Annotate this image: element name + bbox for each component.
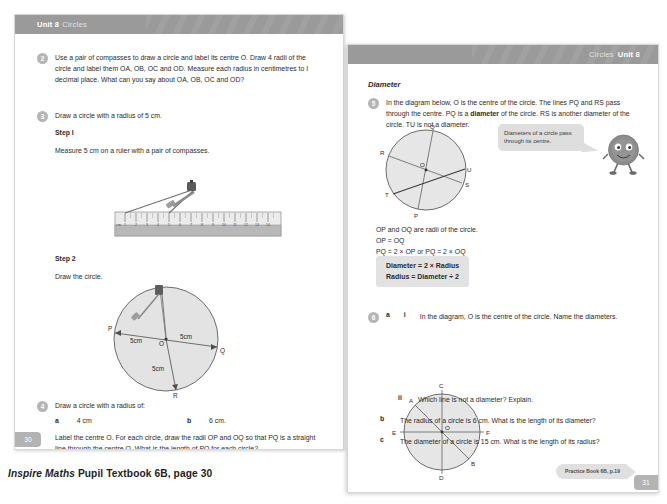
question-4-text: Draw a circle with a radius of: — [55, 400, 145, 411]
dim-right: 5cm — [180, 333, 192, 340]
q6-c-letter: c — [380, 436, 386, 443]
caption-rest-part: Pupil Textbook 6B, page 30 — [75, 468, 212, 479]
label-t: T — [385, 191, 389, 198]
svg-text:7: 7 — [190, 223, 192, 227]
q5-note-line-2: OP = OQ — [376, 235, 404, 246]
ruler-and-compasses-illustration: cm 123 456 789 101112 1314 — [111, 180, 287, 242]
label-u: U — [467, 166, 471, 173]
formula-line-1: Diameter = 2 × Radius — [386, 261, 459, 272]
left-page-number: 30 — [15, 432, 41, 447]
section-title-diameter: Diameter — [368, 80, 401, 89]
q6-a-letter: a — [386, 311, 390, 318]
step-2-label: Step 2 — [55, 253, 76, 264]
q4-option-a-letter: a — [55, 417, 59, 424]
step-1-label: Step I — [55, 127, 74, 138]
question-6-number: 6 — [368, 312, 379, 323]
svg-text:11: 11 — [233, 223, 237, 227]
question-2: 2 Use a pair of compasses to draw a circ… — [37, 52, 323, 86]
formula-box: Diameter = 2 × Radius Radius = Diameter … — [376, 256, 469, 287]
question-2-number: 2 — [37, 53, 48, 64]
svg-text:3: 3 — [146, 223, 148, 227]
mascot-character-icon — [602, 130, 646, 176]
q6-ii-numeral: ii — [398, 394, 404, 401]
svg-text:2: 2 — [135, 223, 137, 227]
question-4-number: 4 — [37, 401, 48, 412]
speech-bubble-text: Diameters of a circle pass through its c… — [498, 124, 584, 151]
label-f: F — [486, 429, 490, 436]
q4-followup-text: Label the centre O. For each circle, dra… — [55, 432, 323, 450]
svg-text:8: 8 — [201, 223, 203, 227]
step-2-circle-figure: P O Q R 5cm 5cm 5cm — [108, 281, 228, 399]
figure-caption: Inspire Maths Pupil Textbook 6B, page 30 — [8, 468, 212, 479]
question-6-ii: ii Which line is not a diameter? Explain… — [398, 394, 644, 405]
dim-down: 5cm — [152, 365, 164, 372]
label-s: S — [465, 181, 469, 188]
q5-note-line-1: OP and OQ are radii of the circle. — [376, 224, 478, 235]
svg-text:9: 9 — [212, 223, 214, 227]
practice-book-reference-label: Practice Book 6B, p.19 — [556, 464, 627, 479]
svg-text:cm: cm — [116, 223, 121, 227]
q6-b-letter: b — [380, 415, 386, 422]
svg-text:6: 6 — [179, 223, 181, 227]
svg-text:4: 4 — [157, 223, 159, 227]
question-6-b: b The radius of a circle is 6 cm. What i… — [380, 415, 644, 426]
label-r: R — [173, 392, 178, 399]
question-3: 3 Draw a circle with a radius of 5 cm. — [37, 110, 323, 122]
label-o: O — [159, 340, 164, 347]
q6-i-numeral: i — [404, 311, 406, 318]
q6-c-text: The diameter of a circle is 15 cm. What … — [400, 436, 600, 447]
q4-option-b-letter: b — [187, 417, 191, 424]
right-page-body: Diameter 5 In the diagram below, O is th… — [348, 64, 658, 492]
svg-text:12: 12 — [244, 223, 248, 227]
right-page-number: 31 — [634, 475, 658, 490]
svg-text:13: 13 — [255, 223, 259, 227]
left-page-header-band: Unit 8 Circles — [15, 15, 343, 34]
question-5-number: 5 — [368, 98, 379, 109]
svg-text:5: 5 — [168, 223, 170, 227]
question-5-circle-figure: Q R O U S T P — [376, 122, 480, 220]
label-r: R — [380, 149, 385, 156]
speech-bubble-group: Diameters of a circle pass through its c… — [498, 122, 648, 184]
right-header-unit: Unit 8 — [618, 50, 640, 59]
q4-option-b-value: 6 cm. — [209, 417, 226, 424]
question-6-c: c The diameter of a circle is 15 cm. Wha… — [380, 436, 644, 447]
label-q: Q — [430, 123, 435, 130]
left-header-topic: Circles — [62, 20, 87, 29]
q6-ii-text: Which line is not a diameter? Explain. — [418, 394, 533, 405]
step-1-text: Measure 5 cm on a ruler with a pair of c… — [55, 145, 315, 156]
formula-line-2: Radius = Diameter ÷ 2 — [386, 272, 459, 283]
q6-i-text: In the diagram, O is the centre of the c… — [420, 311, 618, 322]
svg-text:1: 1 — [124, 223, 126, 227]
svg-text:10: 10 — [222, 223, 226, 227]
label-d: D — [439, 474, 444, 480]
q5-bold-word: diameter — [470, 110, 499, 117]
question-2-text: Use a pair of compasses to draw a circle… — [55, 52, 323, 86]
label-e: E — [392, 429, 396, 436]
right-textbook-page: Circles Unit 8 Diameter 5 In the diagram… — [347, 44, 659, 493]
q6-b-text: The radius of a circle is 6 cm. What is … — [400, 415, 596, 426]
label-o: O — [420, 161, 425, 168]
left-textbook-page: Unit 8 Circles 2 Use a pair of compasses… — [14, 14, 344, 450]
label-q: Q — [220, 347, 225, 355]
practice-book-reference-tag[interactable]: Practice Book 6B, p.19 — [556, 464, 636, 479]
dim-left: 5cm — [130, 337, 142, 344]
label-b: B — [471, 460, 475, 467]
label-p: P — [108, 325, 112, 332]
question-4: 4 Draw a circle with a radius of: — [37, 400, 323, 412]
label-p: P — [414, 212, 418, 219]
question-3-number: 3 — [37, 111, 48, 122]
right-page-header-band: Circles Unit 8 — [348, 45, 658, 64]
right-header-topic: Circles — [589, 50, 614, 59]
label-c: C — [439, 382, 444, 389]
q4-option-a-value: 4 cm — [77, 417, 92, 424]
left-page-body: 2 Use a pair of compasses to draw a circ… — [15, 34, 343, 449]
left-header-unit: Unit 8 — [37, 20, 59, 29]
caption-italic-part: Inspire Maths — [8, 468, 75, 479]
speech-bubble-tail — [581, 142, 599, 155]
screenshot-root: Unit 8 Circles 2 Use a pair of compasses… — [0, 0, 667, 504]
question-3-text: Draw a circle with a radius of 5 cm. — [55, 110, 162, 121]
question-6: 6 a i In the diagram, O is the centre of… — [368, 311, 644, 323]
svg-text:14: 14 — [266, 223, 270, 227]
